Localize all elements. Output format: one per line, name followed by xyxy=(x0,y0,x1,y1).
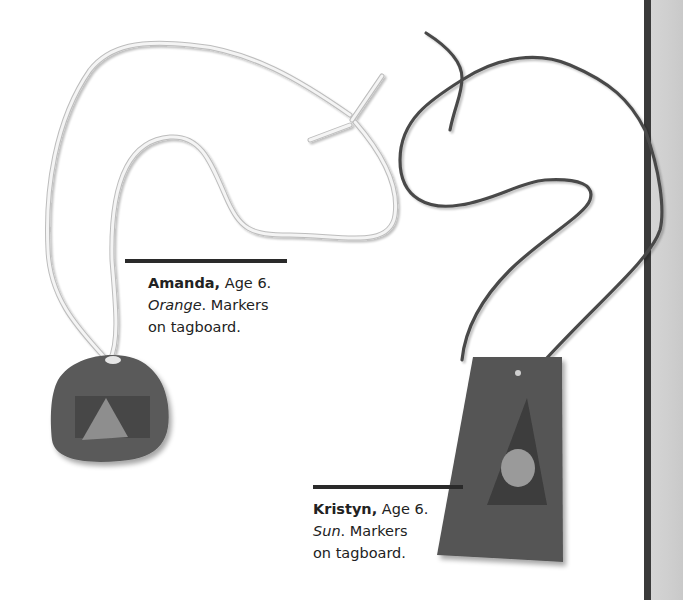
amanda-caption: Amanda, Age 6. Orange. Markers on tagboa… xyxy=(148,272,271,338)
kristyn-caption-line2: Sun. Markers xyxy=(313,520,428,542)
artist-age: Age 6. xyxy=(220,275,271,291)
kristyn-pendant xyxy=(437,357,563,562)
kristyn-caption-leader xyxy=(313,485,463,489)
kristyn-caption-line1: Kristyn, Age 6. xyxy=(313,498,428,520)
artwork-title: Orange xyxy=(148,297,202,313)
amanda-caption-line2: Orange. Markers xyxy=(148,294,271,316)
artist-name: Amanda, xyxy=(148,275,220,291)
artwork-title: Sun xyxy=(313,523,341,539)
amanda-pendant xyxy=(51,355,169,462)
amanda-caption-line3: on tagboard. xyxy=(148,316,271,338)
artist-name: Kristyn, xyxy=(313,501,377,517)
artist-age: Age 6. xyxy=(377,501,428,517)
kristyn-string xyxy=(400,33,662,360)
artwork-medium: . Markers xyxy=(202,297,269,313)
amanda-caption-leader xyxy=(125,259,287,263)
kristyn-caption: Kristyn, Age 6. Sun. Markers on tagboard… xyxy=(313,498,428,564)
book-page: Amanda, Age 6. Orange. Markers on tagboa… xyxy=(0,0,683,600)
kristyn-caption-line3: on tagboard. xyxy=(313,542,428,564)
artwork-medium: . Markers xyxy=(341,523,408,539)
amanda-caption-line1: Amanda, Age 6. xyxy=(148,272,271,294)
